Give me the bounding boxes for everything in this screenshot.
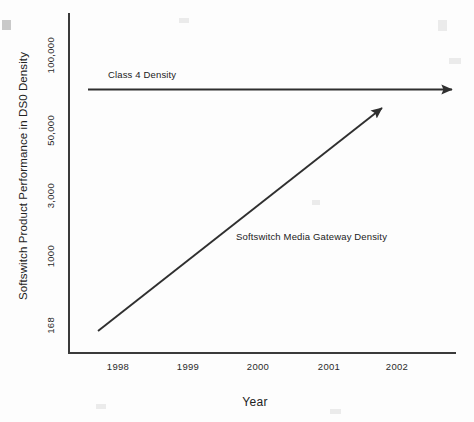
annotation-gateway-density: Softswitch Media Gateway Density [236,231,387,242]
series-line-gateway-density [98,108,382,331]
chart-page: 100,000 50,000 3,000 1000 168 1998 1999 … [0,0,474,422]
series-overlay [0,0,474,422]
annotation-class4-density: Class 4 Density [108,69,176,80]
